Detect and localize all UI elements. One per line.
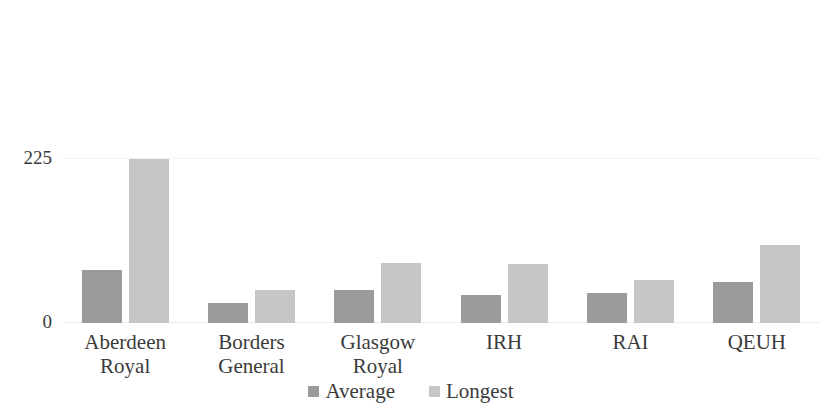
x-axis-labels: AberdeenRoyalBordersGeneralGlasgowRoyalI… — [62, 330, 820, 378]
x-axis-tick-label: BordersGeneral — [188, 330, 314, 378]
bar-average[interactable] — [461, 295, 501, 323]
legend-label: Longest — [446, 381, 514, 402]
x-axis-tick-label: RAI — [567, 330, 693, 378]
bar-average[interactable] — [587, 293, 627, 323]
legend-item-average[interactable]: Average — [308, 381, 395, 402]
bar-average[interactable] — [82, 270, 122, 323]
x-axis-tick-label: QEUH — [694, 330, 820, 378]
bar-group — [62, 158, 188, 323]
bar-chart: 225 0 AberdeenRoyalBordersGeneralGlasgow… — [0, 0, 822, 412]
y-axis: 225 0 — [0, 158, 52, 323]
bar-longest[interactable] — [129, 159, 169, 323]
bar-longest[interactable] — [760, 245, 800, 323]
bar-group — [441, 158, 567, 323]
bar-group — [188, 158, 314, 323]
bar-longest[interactable] — [381, 263, 421, 323]
x-axis-tick-label: AberdeenRoyal — [62, 330, 188, 378]
bar-average[interactable] — [334, 290, 374, 323]
x-axis-tick-label: IRH — [441, 330, 567, 378]
bar-average[interactable] — [208, 303, 248, 323]
bar-groups — [62, 158, 820, 323]
bar-longest[interactable] — [634, 280, 674, 323]
legend-swatch-icon — [308, 386, 319, 397]
bar-longest[interactable] — [508, 264, 548, 323]
legend-label: Average — [325, 381, 395, 402]
bar-longest[interactable] — [255, 290, 295, 323]
x-axis-tick-label: GlasgowRoyal — [315, 330, 441, 378]
chart-legend: AverageLongest — [0, 381, 822, 402]
bar-average[interactable] — [713, 282, 753, 323]
bar-group — [694, 158, 820, 323]
y-axis-tick-min: 0 — [43, 312, 53, 331]
legend-swatch-icon — [429, 386, 440, 397]
y-axis-tick-max: 225 — [24, 148, 53, 167]
legend-item-longest[interactable]: Longest — [429, 381, 514, 402]
bar-group — [315, 158, 441, 323]
bar-group — [567, 158, 693, 323]
